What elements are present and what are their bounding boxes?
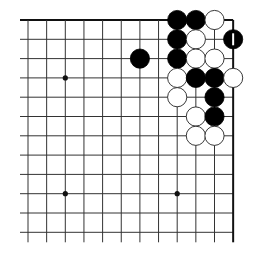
white-stone [205, 10, 224, 29]
black-stone [205, 107, 224, 126]
black-stone [168, 49, 187, 68]
black-stone [186, 68, 205, 87]
go-board [0, 0, 254, 259]
star-point [63, 191, 68, 196]
black-stone [168, 30, 187, 49]
black-stone [186, 10, 205, 29]
white-stone [205, 49, 224, 68]
black-stone [205, 68, 224, 87]
white-stone [186, 49, 205, 68]
black-stone [130, 49, 149, 68]
white-stone [186, 126, 205, 145]
white-stone [168, 68, 187, 87]
white-stone [186, 107, 205, 126]
black-stone [205, 88, 224, 107]
white-stone [224, 68, 243, 87]
star-point [63, 75, 68, 80]
white-stone [186, 30, 205, 49]
star-point [175, 191, 180, 196]
white-stone [168, 88, 187, 107]
white-stone [205, 126, 224, 145]
black-stone [168, 10, 187, 29]
